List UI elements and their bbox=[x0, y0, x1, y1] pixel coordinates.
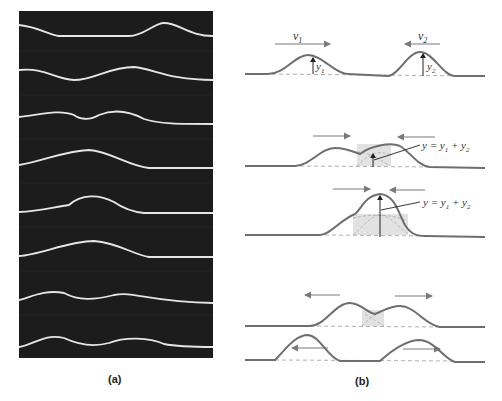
superposition-diagram-b: v1 v2 y1 y2 y = y1 + y2 bbox=[240, 30, 502, 370]
frame-2 bbox=[19, 67, 213, 80]
frame-6 bbox=[19, 241, 213, 257]
frame-3 bbox=[19, 112, 213, 124]
svg-text:y = y1 + y2: y = y1 + y2 bbox=[421, 139, 470, 154]
pulse-superposition-sequence: v1 v2 y1 y2 y = y1 + y2 bbox=[240, 30, 502, 370]
frame-7 bbox=[19, 292, 213, 303]
frame-5 bbox=[19, 196, 213, 213]
row-5-separate-after bbox=[245, 335, 485, 362]
photo-panel-a bbox=[19, 11, 213, 358]
svg-text:y = y1 + y2: y = y1 + y2 bbox=[422, 196, 471, 211]
row-2-partial-overlap: y = y1 + y2 bbox=[245, 136, 485, 168]
row-4-separating bbox=[245, 295, 485, 327]
svg-text:v1: v1 bbox=[293, 30, 302, 45]
caption-a: (a) bbox=[108, 373, 121, 385]
string-photo-frames bbox=[19, 11, 213, 358]
svg-text:y1: y1 bbox=[315, 60, 324, 75]
row-1-separate-pulses: v1 v2 y1 y2 bbox=[245, 30, 485, 76]
svg-text:y2: y2 bbox=[426, 60, 436, 75]
frame-8 bbox=[19, 337, 213, 347]
svg-text:v2: v2 bbox=[418, 30, 427, 45]
row-3-full-overlap: y = y1 + y2 bbox=[245, 189, 485, 237]
caption-b: (b) bbox=[355, 375, 369, 387]
frame-4 bbox=[19, 150, 213, 168]
frame-1 bbox=[19, 23, 213, 36]
